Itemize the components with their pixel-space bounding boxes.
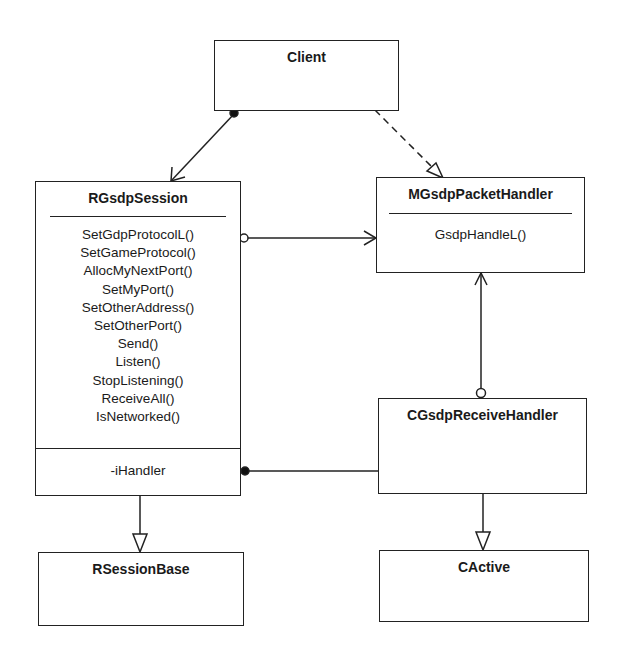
- operation: SetOtherPort(): [36, 317, 240, 335]
- client-session-association: [171, 114, 234, 181]
- operations-list: SetGdpProtocolL() SetGameProtocol() Allo…: [36, 226, 240, 426]
- operations-list: GsdpHandleL(): [377, 226, 584, 244]
- class-cgsdpreceivehandler: CGsdpReceiveHandler: [378, 398, 587, 494]
- class-name: CActive: [380, 559, 588, 575]
- hollow-triangle-icon: [133, 534, 147, 552]
- hollow-circle-icon: [477, 389, 486, 398]
- client-packethandler-dependency: [375, 110, 432, 167]
- attribute: -iHandler: [36, 463, 240, 478]
- operation: SetGdpProtocolL(): [36, 226, 240, 244]
- class-rgsdpsession: RGsdpSession SetGdpProtocolL() SetGamePr…: [35, 181, 241, 496]
- operation: SetMyPort(): [36, 281, 240, 299]
- attribute-separator: [36, 448, 240, 449]
- operation: Send(): [36, 335, 240, 353]
- hollow-circle-icon: [240, 234, 248, 242]
- class-name: Client: [215, 49, 398, 65]
- operation: SetOtherAddress(): [36, 299, 240, 317]
- name-separator: [389, 213, 572, 214]
- name-separator: [50, 216, 226, 217]
- class-name: CGsdpReceiveHandler: [379, 407, 586, 423]
- operation: SetGameProtocol(): [36, 244, 240, 262]
- filled-dot-icon: [241, 467, 249, 475]
- class-rsessionbase: RSessionBase: [38, 552, 244, 626]
- class-name: MGsdpPacketHandler: [377, 186, 584, 202]
- class-name: RSessionBase: [39, 561, 243, 577]
- class-name: RGsdpSession: [36, 190, 240, 206]
- operation: AllocMyNextPort(): [36, 262, 240, 280]
- class-client: Client: [214, 40, 399, 111]
- operation: IsNetworked(): [36, 408, 240, 426]
- class-mgsdppackethandler: MGsdpPacketHandler GsdpHandleL(): [376, 177, 585, 273]
- operation: GsdpHandleL(): [377, 226, 584, 244]
- operation: Listen(): [36, 353, 240, 371]
- hollow-triangle-icon: [476, 532, 490, 550]
- class-cactive: CActive: [379, 550, 589, 622]
- operation: StopListening(): [36, 372, 240, 390]
- operation: ReceiveAll(): [36, 390, 240, 408]
